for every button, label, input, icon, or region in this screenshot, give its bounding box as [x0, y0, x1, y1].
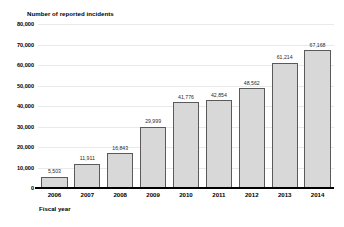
bar-slot: 16,843 — [104, 24, 137, 188]
y-axis-tick-label: 20,000 — [17, 144, 34, 150]
bar-value-label: 29,999 — [137, 118, 170, 124]
bar — [239, 88, 265, 188]
y-axis-tick-label: 30,000 — [17, 124, 34, 130]
bar-slot: 67,168 — [301, 24, 334, 188]
bar-slot: 29,999 — [137, 24, 170, 188]
bar-slot: 11,911 — [71, 24, 104, 188]
x-axis-tick-label: 2009 — [137, 191, 170, 198]
bar-value-label: 61,214 — [268, 54, 301, 60]
bar-slot: 61,214 — [268, 24, 301, 188]
y-axis-tick-label: 50,000 — [17, 83, 34, 89]
bar — [173, 102, 199, 188]
bar-chart: Number of reported incidents 010,00020,0… — [0, 0, 344, 227]
bar-value-label: 48,562 — [235, 80, 268, 86]
bar — [304, 50, 330, 188]
x-axis-tick-label: 2012 — [235, 191, 268, 198]
x-axis-tick-label: 2007 — [71, 191, 104, 198]
plot-area: 5,50311,91116,84329,99941,77642,85448,56… — [38, 24, 334, 188]
bar-value-label: 11,911 — [71, 155, 104, 161]
bar-value-label: 16,843 — [104, 145, 137, 151]
x-axis-tick-labels: 200620072008200920102011201220132014 — [38, 191, 334, 203]
bar — [206, 100, 232, 188]
bar-slot: 5,503 — [38, 24, 71, 188]
bar-value-label: 5,503 — [38, 168, 71, 174]
y-axis-tick-label: 40,000 — [17, 103, 34, 109]
x-axis-line — [35, 187, 334, 189]
bar-slot: 41,776 — [170, 24, 203, 188]
y-axis-tick-labels: 010,00020,00030,00040,00050,00060,00070,… — [0, 24, 34, 188]
x-axis-tick-label: 2011 — [202, 191, 235, 198]
x-axis-tick-label: 2006 — [38, 191, 71, 198]
bar — [74, 164, 100, 188]
x-axis-title: Fiscal year — [39, 205, 71, 212]
y-axis-tick-label: 80,000 — [17, 21, 34, 27]
bars-group: 5,50311,91116,84329,99941,77642,85448,56… — [38, 24, 334, 188]
y-axis-tick-label: 10,000 — [17, 165, 34, 171]
bar-slot: 42,854 — [202, 24, 235, 188]
x-axis-tick-label: 2008 — [104, 191, 137, 198]
bar — [107, 153, 133, 188]
x-axis-tick-label: 2013 — [268, 191, 301, 198]
x-axis-tick-label: 2010 — [170, 191, 203, 198]
y-axis-tick-label: 60,000 — [17, 62, 34, 68]
y-axis-tick-label: 0 — [31, 185, 34, 191]
y-axis-tick-label: 70,000 — [17, 42, 34, 48]
bar-value-label: 41,776 — [170, 94, 203, 100]
bar-value-label: 67,168 — [301, 42, 334, 48]
bar — [272, 63, 298, 188]
bar-value-label: 42,854 — [202, 92, 235, 98]
x-axis-tick-label: 2014 — [301, 191, 334, 198]
bar — [140, 127, 166, 188]
y-axis-title: Number of reported incidents — [27, 10, 114, 17]
bar-slot: 48,562 — [235, 24, 268, 188]
